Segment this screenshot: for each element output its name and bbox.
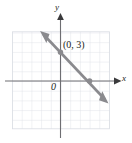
y-axis-label: y xyxy=(55,3,59,12)
coordinate-plane-figure: y x 0 (0, 3) xyxy=(0,0,132,143)
origin-label: 0 xyxy=(51,82,56,92)
x-axis-label: x xyxy=(122,74,126,83)
graph-canvas xyxy=(0,0,132,143)
point-marker-y-intercept xyxy=(58,50,63,55)
point-coordinate-label: (0, 3) xyxy=(63,40,85,50)
point-marker-x-intercept xyxy=(87,78,92,83)
